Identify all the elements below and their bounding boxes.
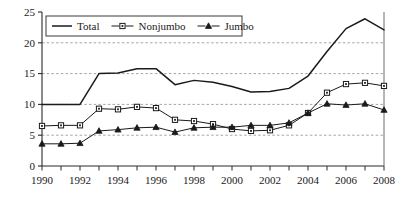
x-tick-label: 2002 <box>259 174 281 186</box>
legend-label: Jumbo <box>225 20 255 32</box>
data-point-marker-center <box>250 130 252 132</box>
x-tick-label: 1992 <box>69 174 91 186</box>
y-tick-label: 15 <box>24 67 36 79</box>
data-point-marker-center <box>345 83 347 85</box>
data-point-marker-center <box>98 108 100 110</box>
data-point-marker-center <box>383 85 385 87</box>
data-point-marker-center <box>155 107 157 109</box>
x-tick-label: 1990 <box>31 174 54 186</box>
data-point-marker-center <box>41 125 43 127</box>
x-tick-label: 1994 <box>107 174 130 186</box>
x-tick-label: 2000 <box>221 174 244 186</box>
data-point-marker-center <box>364 82 366 84</box>
data-point-marker-center <box>269 129 271 131</box>
y-tick-label: 25 <box>24 6 36 18</box>
y-tick-label: 5 <box>30 129 36 141</box>
x-tick-label: 2004 <box>297 174 320 186</box>
x-tick-label: 2008 <box>373 174 396 186</box>
data-point-marker-center <box>79 124 81 126</box>
y-tick-label: 10 <box>24 98 36 110</box>
data-point-marker-center <box>117 108 119 110</box>
chart-legend: TotalNonjumboJumbo <box>46 16 254 36</box>
line-chart: 0510152025 19901992199419961998200020022… <box>0 0 401 202</box>
data-point-marker-center <box>326 92 328 94</box>
chart-container: 0510152025 19901992199419961998200020022… <box>0 0 401 202</box>
data-point-marker-center <box>60 124 62 126</box>
data-point-marker-center <box>193 120 195 122</box>
x-tick-label: 1998 <box>183 174 206 186</box>
data-point-marker-center <box>136 106 138 108</box>
x-tick-label: 2006 <box>335 174 358 186</box>
y-tick-label: 20 <box>24 37 36 49</box>
data-point-marker-center <box>174 119 176 121</box>
x-tick-label: 1996 <box>145 174 168 186</box>
legend-label: Total <box>77 20 99 32</box>
legend-marker-swatch-center <box>122 25 124 27</box>
y-tick-label: 0 <box>30 160 36 172</box>
legend-label: Nonjumbo <box>138 20 186 32</box>
